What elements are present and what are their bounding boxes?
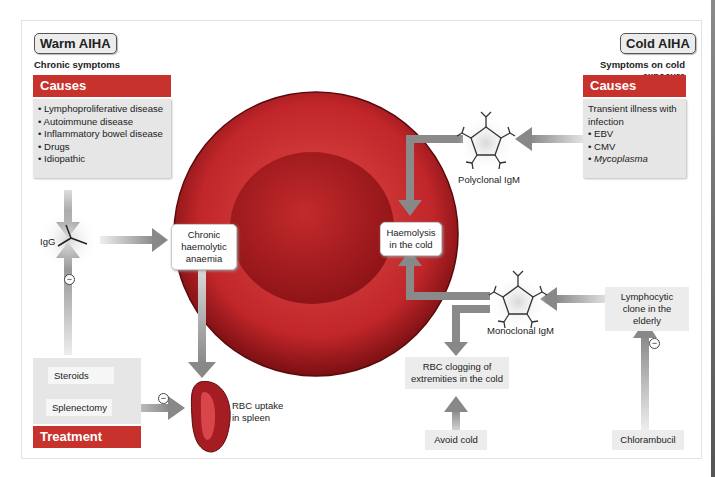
warm-aiha-title: Warm AIHA: [34, 33, 117, 54]
cold-aiha-title: Cold AIHA: [620, 33, 696, 54]
monoclonal-igm-label: Monoclonal IgM: [483, 325, 558, 337]
chronic-haemolytic-anaemia-box: Chronic haemolytic anaemia: [171, 224, 237, 270]
avoid-cold-box: Avoid cold: [425, 430, 487, 450]
cold-causes-header: Causes: [583, 75, 686, 97]
warm-causes-header: Causes: [33, 75, 171, 97]
spleen-icon: [191, 381, 230, 452]
cold-causes-box: Transient illness with infection EBV CMV…: [583, 99, 686, 178]
treatment-splenectomy: Splenectomy: [46, 399, 112, 416]
warm-subtitle: Chronic symptoms: [34, 59, 120, 70]
cold-cause-item: CMV: [588, 141, 681, 154]
rbc-clogging-box: RBC clogging of extremities in the cold: [405, 357, 509, 389]
chlorambucil-box: Chlorambucil: [612, 430, 684, 450]
inhibit-icon: −: [649, 338, 660, 349]
treatment-header: Treatment: [33, 426, 141, 448]
lymphocytic-clone-box: Lymphocytic clone in the elderly: [605, 287, 689, 331]
warm-cause-item: Lymphoproliferative disease: [38, 103, 166, 116]
cold-cause-item: Mycoplasma: [588, 153, 681, 166]
haemolysis-in-cold-box: Haemolysis in the cold: [380, 222, 442, 256]
spleen-label: RBC uptake in spleen: [232, 400, 292, 424]
warm-causes-box: Lymphoproliferative disease Autoimmune d…: [33, 99, 171, 178]
inhibit-icon: −: [64, 274, 75, 285]
cold-cause-item: EBV: [588, 128, 681, 141]
warm-cause-item: Autoimmune disease: [38, 116, 166, 129]
polyclonal-igm-label: Polyclonal IgM: [454, 174, 524, 186]
igg-label: IgG: [40, 236, 55, 248]
warm-cause-item: Idiopathic: [38, 153, 166, 166]
inhibit-icon: −: [158, 393, 169, 404]
cold-causes-intro: Transient illness with infection: [588, 103, 681, 128]
warm-cause-item: Drugs: [38, 141, 166, 154]
warm-cause-item: Inflammatory bowel disease: [38, 128, 166, 141]
treatment-steroids: Steroids: [48, 367, 114, 384]
